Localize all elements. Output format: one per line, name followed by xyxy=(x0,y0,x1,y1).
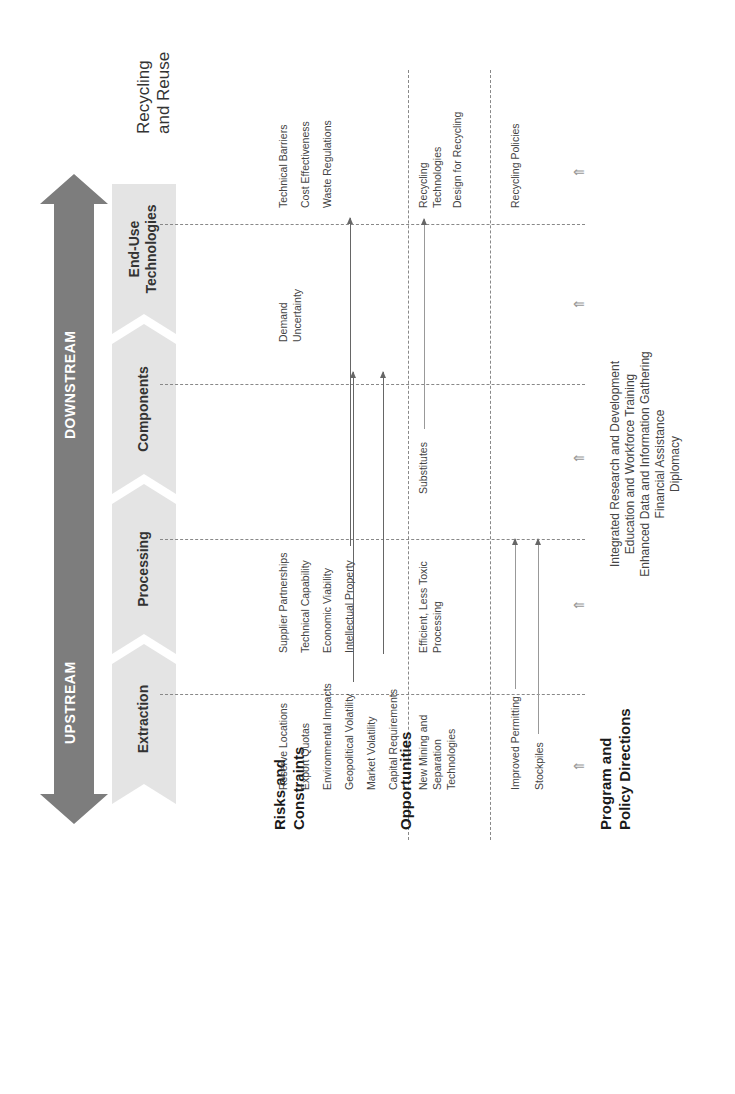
up-arrow-icon: ⇑ xyxy=(572,599,586,611)
stage-extraction: Extraction xyxy=(135,659,152,779)
stage-components: Components xyxy=(135,349,152,469)
divider-opportunities-program xyxy=(490,70,491,840)
stage-processing: Processing xyxy=(135,509,152,629)
connector-substitutes xyxy=(424,219,425,429)
opportunities-processing-list: Efficient, Less Toxic Processing xyxy=(416,561,444,653)
divider-enduse-recycling xyxy=(160,224,585,225)
upstream-label: UPSTREAM xyxy=(62,661,78,744)
cross-cutting-policy-list: Integrated Research and Development Educ… xyxy=(608,274,683,654)
risks-recycling-list: Technical Barriers Cost Effectiveness Wa… xyxy=(276,120,334,208)
opportunities-recycling-list: Recycling Technologies Design for Recycl… xyxy=(416,112,464,208)
downstream-label: DOWNSTREAM xyxy=(62,331,78,439)
up-arrow-icon: ⇑ xyxy=(572,452,586,464)
program-extraction-list: Improved Permitting Stockpiles xyxy=(508,696,546,790)
stage-recycling: Recycling and Reuse xyxy=(134,52,174,134)
up-arrow-icon: ⇑ xyxy=(572,166,586,178)
opportunities-components-list: Substitutes xyxy=(416,442,430,494)
row-label-program: Program and Policy Directions xyxy=(596,708,634,830)
risks-enduse-list: Demand Uncertainty xyxy=(276,289,304,342)
divider-risks-opportunities xyxy=(408,70,409,840)
divider-processing-components xyxy=(160,539,585,540)
connector-intellectual-property xyxy=(350,218,351,546)
risks-extraction-list: Reserve Locations Export Quotas Environm… xyxy=(276,683,400,790)
opportunities-extraction-list: New Mining and Separation Technologies xyxy=(416,715,458,790)
supply-chain-diagram: UPSTREAM DOWNSTREAM Extraction Processin… xyxy=(0,0,735,1094)
up-arrow-icon: ⇑ xyxy=(572,298,586,310)
stage-end-use: End-Use Technologies xyxy=(126,184,160,314)
risks-processing-list: Supplier Partnerships Technical Capabili… xyxy=(276,553,356,653)
divider-components-enduse xyxy=(160,384,585,385)
connector-capital-requirements xyxy=(383,372,384,654)
up-arrow-icon: ⇑ xyxy=(572,760,586,772)
program-recycling-list: Recycling Policies xyxy=(508,123,522,208)
connector-improved-permitting xyxy=(515,539,516,689)
connector-stockpiles xyxy=(538,539,539,734)
